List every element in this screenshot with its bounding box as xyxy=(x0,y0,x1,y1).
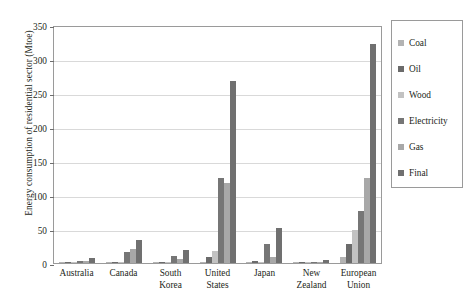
chart-figure: Energy consumption of residential sector… xyxy=(0,0,468,306)
x-axis-label: Japan xyxy=(241,268,288,291)
y-axis-tick-label: 50 xyxy=(38,226,47,236)
y-axis-tick-label: 350 xyxy=(33,22,47,32)
plot-area: 050100150200250300350 xyxy=(53,26,382,264)
y-axis-tick-label: 0 xyxy=(42,260,47,270)
legend-swatch-icon xyxy=(398,66,404,72)
x-axis-label: South Korea xyxy=(147,268,194,291)
bar xyxy=(276,228,282,263)
bar-groups xyxy=(54,27,381,263)
legend-swatch-icon xyxy=(398,170,404,176)
legend-swatch-icon xyxy=(398,144,404,150)
legend-item[interactable]: Oil xyxy=(398,56,462,82)
legend-item[interactable]: Gas xyxy=(398,134,462,160)
legend-label: Coal xyxy=(409,38,427,48)
gridline xyxy=(54,265,381,266)
legend-label: Wood xyxy=(409,90,431,100)
legend-swatch-icon xyxy=(398,118,404,124)
bar xyxy=(230,81,236,263)
x-axis-label: Canada xyxy=(100,268,147,291)
x-axis-label: European Union xyxy=(335,268,382,291)
legend-label: Oil xyxy=(409,64,421,74)
legend-item[interactable]: Wood xyxy=(398,82,462,108)
bar-group xyxy=(54,27,101,263)
legend-item[interactable]: Coal xyxy=(398,30,462,56)
x-axis-label: Australia xyxy=(53,268,100,291)
legend-label: Electricity xyxy=(409,116,448,126)
bar xyxy=(183,250,189,263)
bar xyxy=(370,44,376,263)
bar xyxy=(89,258,95,263)
bar xyxy=(136,240,142,263)
x-axis-labels: AustraliaCanadaSouth KoreaUnited StatesJ… xyxy=(53,268,382,291)
bar-group xyxy=(147,27,194,263)
legend-item[interactable]: Electricity xyxy=(398,108,462,134)
bar-group xyxy=(288,27,335,263)
y-axis-tick-label: 100 xyxy=(33,192,47,202)
bar-group xyxy=(241,27,288,263)
bar-group xyxy=(101,27,148,263)
legend-item[interactable]: Final xyxy=(398,160,462,186)
legend-label: Gas xyxy=(409,142,423,152)
bar-group xyxy=(334,27,381,263)
y-axis-tick-label: 250 xyxy=(33,90,47,100)
y-axis-tick-label: 300 xyxy=(33,56,47,66)
y-axis-tick xyxy=(50,265,54,266)
y-axis-tick-label: 200 xyxy=(33,124,47,134)
legend-swatch-icon xyxy=(398,92,404,98)
x-axis-label: New Zealand xyxy=(288,268,335,291)
x-axis-label: United States xyxy=(194,268,241,291)
legend-swatch-icon xyxy=(398,40,404,46)
legend-label: Final xyxy=(409,168,428,178)
y-axis-tick-label: 150 xyxy=(33,158,47,168)
bar xyxy=(323,260,329,263)
bar-group xyxy=(194,27,241,263)
legend: CoalOilWoodElectricityGasFinal xyxy=(391,20,463,188)
